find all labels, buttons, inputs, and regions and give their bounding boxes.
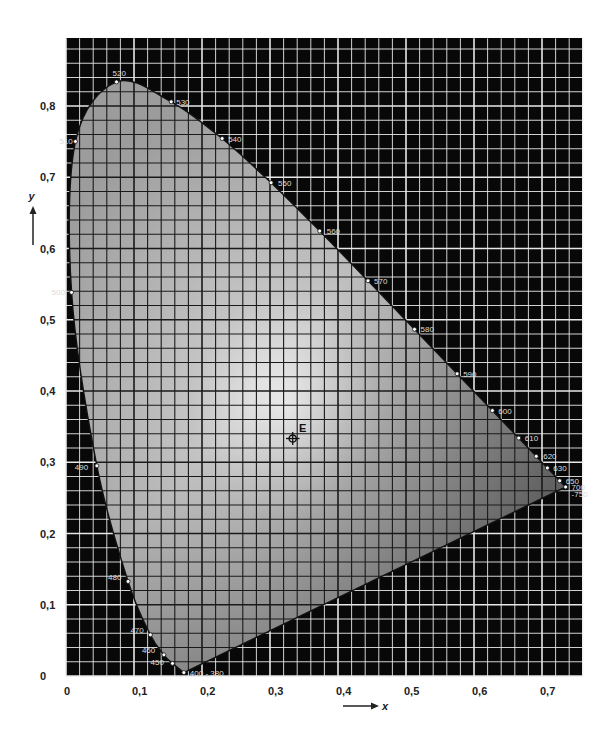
x-tick-label: 0,6 [472,685,487,697]
wavelength-marker [318,229,322,233]
wavelength-label: 470 [130,626,144,635]
wavelength-label: 480 [108,573,122,582]
wavelength-marker [115,80,119,84]
y-tick-label: 0,3 [40,456,55,468]
wavelength-label: 520 [113,69,127,78]
wavelength-label: 460 [142,646,156,655]
wavelength-marker [148,633,152,637]
svg-text:x: x [381,700,389,712]
wavelength-marker [169,100,173,104]
x-tick-label: 0,2 [200,685,215,697]
wavelength-label: 600 [498,407,512,416]
wavelength-label: 620 [543,452,557,461]
wavelength-label: 450 [150,658,164,667]
wavelength-marker [558,479,562,483]
x-tick-label: 0,1 [132,685,147,697]
wavelength-marker [170,661,174,665]
chromaticity-chart: 400 - 3804504604704804905005105205305405… [0,0,614,732]
wavelength-marker [455,372,459,376]
x-tick-label: 0 [64,685,70,697]
y-tick-label: 0,5 [40,314,55,326]
wavelength-marker [220,137,224,141]
wavelength-marker [182,671,186,675]
y-tick-label: 0,4 [40,385,56,397]
y-axis-label: y [28,190,37,245]
wavelength-marker [70,290,74,294]
wavelength-label: 610 [525,434,539,443]
x-axis-ticks: 00,10,20,30,40,50,60,7 [64,685,555,697]
wavelength-marker [534,454,538,458]
y-tick-label: 0,8 [40,100,55,112]
x-tick-label: 0,7 [540,685,555,697]
wavelength-label: 590 [463,370,477,379]
wavelength-marker [269,181,273,185]
y-tick-label: 0,2 [40,528,55,540]
y-tick-label: 0,7 [40,171,55,183]
wavelength-marker [73,139,77,143]
wavelength-label: 570 [374,277,388,286]
x-tick-label: 0,5 [404,685,419,697]
wavelength-label: 510 [59,137,73,146]
y-tick-label: 0 [40,670,46,682]
wavelength-label: 550 [278,179,292,188]
wavelength-marker [366,279,370,283]
wavelength-marker [95,464,99,468]
wavelength-label: 530 [176,98,190,107]
wavelength-label: 490 [75,463,89,472]
arrow-up-icon [30,206,37,214]
x-tick-label: 0,3 [268,685,283,697]
x-axis-label: x [343,700,389,712]
wavelength-label: -750 [572,490,589,499]
wavelength-label: 630 [553,464,567,473]
y-axis-ticks: 00,10,20,30,40,50,60,70,8 [40,100,56,682]
white-point-label: E [299,422,306,434]
arrow-right-icon [371,703,379,710]
y-tick-label: 0,1 [40,599,55,611]
wavelength-label: 580 [421,325,435,334]
wavelength-label: 500 [52,288,66,297]
x-tick-label: 0,4 [336,685,352,697]
wavelength-marker [162,653,166,657]
wavelength-marker [490,409,494,413]
wavelength-marker [517,436,521,440]
wavelength-marker [126,579,130,583]
svg-text:y: y [28,190,36,202]
wavelength-label: 400 - 380 [190,669,224,678]
y-tick-label: 0,6 [40,243,55,255]
wavelength-marker [413,327,417,331]
wavelength-marker [545,466,549,470]
wavelength-marker [564,485,568,489]
wavelength-label: 540 [228,135,242,144]
wavelength-label: 560 [327,227,341,236]
